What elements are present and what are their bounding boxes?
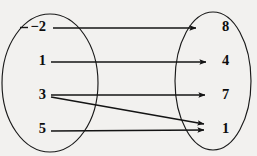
arrow-5-to-1 <box>51 130 204 131</box>
mapping-diagram-canvas: −2 1 3 5 8 4 7 1 <box>0 0 257 156</box>
mapping-diagram-screenshot: g ( , , , ) −2 1 3 5 8 4 7 1 <box>0 0 257 156</box>
right-node-1: 1 <box>222 120 229 136</box>
arrow-3-to-1 <box>51 97 204 124</box>
left-node-3: 3 <box>39 86 46 102</box>
left-node-5: 5 <box>39 120 46 136</box>
right-node-8: 8 <box>222 18 229 34</box>
right-node-4: 4 <box>222 52 229 68</box>
right-node-7: 7 <box>222 86 229 102</box>
left-node-neg2: −2 <box>30 18 46 34</box>
left-node-1: 1 <box>39 52 46 68</box>
right-set-ellipse <box>175 12 251 150</box>
